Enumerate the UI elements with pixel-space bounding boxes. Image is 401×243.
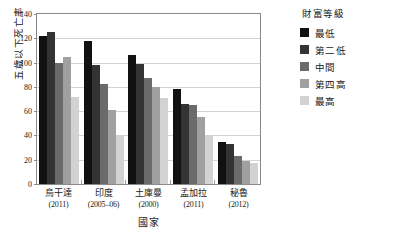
bar <box>242 161 250 184</box>
legend-item[interactable]: 最高 <box>300 92 398 109</box>
bar <box>63 57 71 185</box>
bar <box>128 55 136 184</box>
x-tick-country: 孟加拉 <box>180 188 207 198</box>
bar <box>71 97 79 184</box>
x-tick-year: (2005–06) <box>81 199 126 211</box>
bar <box>250 163 258 184</box>
y-tick-label: 120 <box>20 34 32 43</box>
x-tick-label: 孟加拉(2011) <box>171 187 216 211</box>
y-tick-label: 40 <box>24 131 32 140</box>
x-tick-year: (2011) <box>36 199 81 211</box>
bar <box>108 110 116 184</box>
legend-title: 財富等級 <box>300 6 398 20</box>
bar <box>218 142 226 185</box>
legend-label: 最高 <box>315 94 336 108</box>
legend-label: 第二低 <box>315 43 346 57</box>
bar-group <box>82 14 127 184</box>
legend-swatch <box>300 96 309 105</box>
bar <box>47 32 55 184</box>
legend-item[interactable]: 第二低 <box>300 41 398 58</box>
bar-group <box>215 14 260 184</box>
bar <box>160 98 168 184</box>
bar <box>181 104 189 184</box>
legend-label: 最低 <box>315 26 336 40</box>
legend-item[interactable]: 最低 <box>300 24 398 41</box>
legend: 財富等級 最低第二低中間第四高最高 <box>300 6 398 109</box>
x-tick-label: 印度(2005–06) <box>81 187 126 211</box>
x-axis-title: 國家 <box>36 214 261 229</box>
bar <box>173 89 181 184</box>
y-tick-label: 60 <box>24 107 32 116</box>
x-tick-year: (2000) <box>126 199 171 211</box>
bar-group <box>126 14 171 184</box>
y-tick-mark <box>34 184 37 185</box>
legend-swatch <box>300 62 309 71</box>
y-tick-label: 100 <box>20 58 32 67</box>
bar <box>100 84 108 184</box>
bar <box>144 78 152 184</box>
legend-item[interactable]: 中間 <box>300 58 398 75</box>
plot-area: 020406080100120140 <box>36 13 261 185</box>
bar-chart: 五歲以下死亡率 020406080100120140 烏干達(2011)印度(2… <box>0 0 401 243</box>
bar <box>152 87 160 184</box>
x-tick-country: 秘魯 <box>230 188 248 198</box>
bar <box>39 36 47 184</box>
x-tick-year: (2012) <box>216 199 261 211</box>
legend-items: 最低第二低中間第四高最高 <box>300 24 398 109</box>
bar <box>116 135 124 184</box>
bar <box>197 117 205 184</box>
bar-group <box>37 14 82 184</box>
y-tick-label: 80 <box>24 82 32 91</box>
bar <box>205 135 213 184</box>
legend-label: 中間 <box>315 60 336 74</box>
bar-group <box>171 14 216 184</box>
bar <box>55 63 63 184</box>
bar <box>136 64 144 184</box>
x-tick-label: 烏干達(2011) <box>36 187 81 211</box>
legend-swatch <box>300 79 309 88</box>
y-tick-label: 20 <box>24 155 32 164</box>
x-tick-country: 烏干達 <box>45 188 72 198</box>
bar <box>84 41 92 184</box>
x-tick-label: 土庫曼(2000) <box>126 187 171 211</box>
legend-swatch <box>300 28 309 37</box>
y-tick-label: 140 <box>20 10 32 19</box>
x-tick-country: 印度 <box>95 188 113 198</box>
legend-label: 第四高 <box>315 77 346 91</box>
bar <box>226 144 234 184</box>
x-tick-label: 秘魯(2012) <box>216 187 261 211</box>
x-tick-country: 土庫曼 <box>135 188 162 198</box>
x-axis-labels: 烏干達(2011)印度(2005–06)土庫曼(2000)孟加拉(2011)秘魯… <box>36 187 261 211</box>
x-tick-year: (2011) <box>171 199 216 211</box>
bar <box>234 156 242 184</box>
bar <box>92 65 100 184</box>
legend-item[interactable]: 第四高 <box>300 75 398 92</box>
bar <box>189 105 197 184</box>
bar-groups <box>37 14 260 184</box>
y-tick-label: 0 <box>28 180 32 189</box>
legend-swatch <box>300 45 309 54</box>
